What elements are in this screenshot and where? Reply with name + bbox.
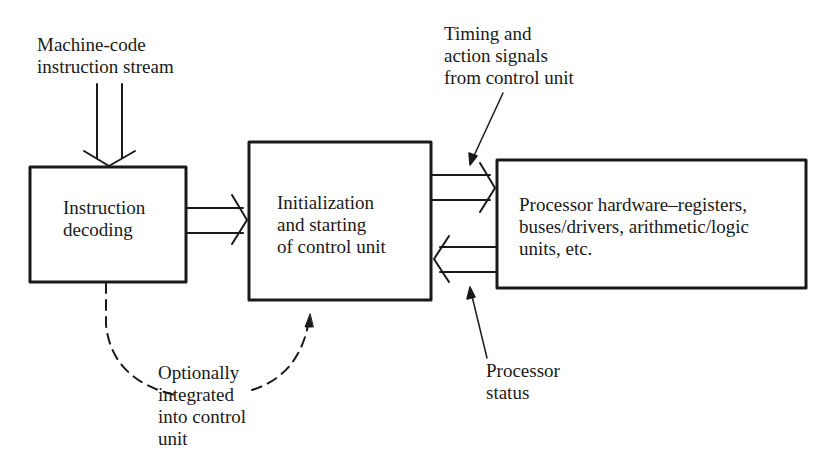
timing-pointer-arrow-icon <box>469 93 503 165</box>
initialization-line-3: of control unit <box>277 236 386 258</box>
processor-hardware-line-1: Processor hardware–registers, <box>519 194 749 216</box>
decode-to-init-arrow-icon <box>186 195 247 244</box>
timing-signals-line-3: from control unit <box>444 67 574 89</box>
input-stream-line-2: instruction stream <box>37 56 174 78</box>
status-pointer-arrow-icon <box>467 287 487 358</box>
optional-note-label: Optionally integrated into control unit <box>158 362 246 450</box>
init-to-processor-arrow-icon <box>431 163 495 212</box>
optional-note-line-2: integrated <box>158 384 246 406</box>
initialization-label: Initialization and starting of control u… <box>277 192 386 258</box>
input-stream-line-1: Machine-code <box>37 34 174 56</box>
input-stream-arrow-icon <box>84 84 135 166</box>
processor-to-init-arrow-icon <box>434 236 497 282</box>
input-stream-label: Machine-code instruction stream <box>37 34 174 78</box>
initialization-line-2: and starting <box>277 214 386 236</box>
instruction-decoding-line-1: Instruction <box>63 197 145 219</box>
optional-note-line-3: into control <box>158 406 246 428</box>
processor-hardware-line-3: units, etc. <box>519 238 749 260</box>
processor-hardware-label: Processor hardware–registers, buses/driv… <box>519 194 749 260</box>
optional-note-line-1: Optionally <box>158 362 246 384</box>
timing-signals-label: Timing and action signals from control u… <box>444 23 574 89</box>
instruction-decoding-line-2: decoding <box>63 219 145 241</box>
instruction-decoding-label: Instruction decoding <box>63 197 145 241</box>
processor-status-line-1: Processor <box>486 360 560 382</box>
processor-hardware-line-2: buses/drivers, arithmetic/logic <box>519 216 749 238</box>
optional-note-line-4: unit <box>158 428 246 450</box>
initialization-line-1: Initialization <box>277 192 386 214</box>
timing-signals-line-2: action signals <box>444 45 574 67</box>
processor-status-line-2: status <box>486 382 560 404</box>
timing-signals-line-1: Timing and <box>444 23 574 45</box>
processor-status-label: Processor status <box>486 360 560 404</box>
